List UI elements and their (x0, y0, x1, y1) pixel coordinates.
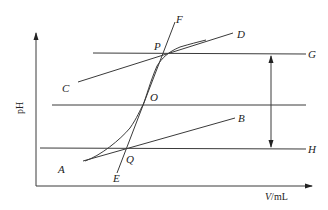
line-PG (93, 53, 306, 54)
label-C: C (62, 82, 70, 94)
label-P: P (153, 40, 161, 52)
label-A: A (57, 163, 65, 175)
label-O: O (150, 91, 158, 103)
line-QH (40, 148, 306, 149)
line-AB (83, 118, 235, 161)
label-D: D (236, 28, 245, 40)
label-E: E (112, 172, 120, 184)
label-H: H (307, 143, 317, 155)
label-F: F (175, 13, 183, 25)
label-B: B (238, 112, 245, 124)
label-G: G (308, 48, 316, 60)
titration-diagram: pH V/mL C D F P G O B H Q A E (0, 0, 328, 210)
label-Q: Q (126, 153, 134, 165)
y-axis-label: pH (14, 102, 25, 114)
x-axis-label: V/mL (265, 191, 288, 202)
